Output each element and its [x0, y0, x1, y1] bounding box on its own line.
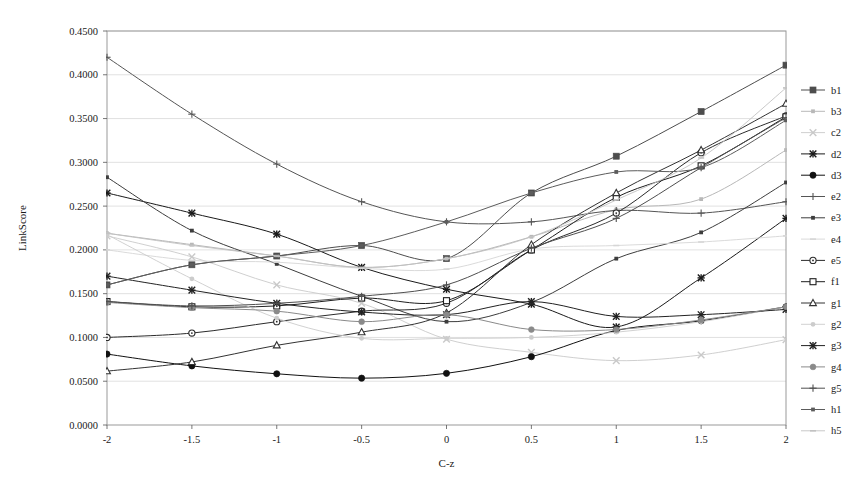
marker-dot-small — [529, 191, 533, 195]
data-point-h1 — [699, 166, 703, 170]
marker-square-open — [444, 298, 450, 304]
legend-label-b3: b3 — [831, 106, 842, 117]
data-point-g4 — [528, 327, 534, 333]
marker-dot-small — [190, 263, 194, 267]
data-point-h1 — [529, 191, 533, 195]
legend-marker-g3 — [809, 342, 816, 349]
legend-label-e4: e4 — [831, 234, 842, 245]
data-point-d3 — [274, 371, 280, 377]
legend-marker-e3 — [811, 216, 815, 220]
y-axis-tick-label: 0.4000 — [69, 69, 98, 80]
marker-dot-small — [811, 408, 815, 412]
legend-label-g3: g3 — [831, 340, 842, 351]
legend-item-e2[interactable]: e2 — [801, 191, 841, 202]
data-point-b1 — [783, 62, 789, 68]
data-point-h1 — [445, 220, 449, 224]
marker-circle-gray — [783, 304, 789, 310]
y-axis: 0.00000.05000.10000.15000.20000.25000.30… — [69, 26, 107, 431]
plot-background — [107, 31, 786, 425]
marker-dot-small — [699, 197, 703, 201]
legend-label-e5: e5 — [831, 255, 841, 266]
marker-square-open — [810, 279, 816, 285]
y-axis-tick-label: 0.2000 — [69, 244, 98, 255]
x-axis-tick-label: 0.5 — [525, 434, 538, 445]
legend-item-f1[interactable]: f1 — [801, 276, 840, 287]
legend-marker-g5 — [809, 385, 816, 392]
legend-marker-d3 — [810, 172, 816, 178]
legend-item-d2[interactable]: d2 — [801, 149, 842, 160]
marker-dot-light — [529, 335, 534, 340]
legend-item-h1[interactable]: h1 — [801, 404, 842, 415]
marker-dot-small — [445, 220, 449, 224]
y-axis-tick-label: 0.0500 — [69, 376, 98, 387]
legend-item-e3[interactable]: e3 — [801, 212, 841, 223]
marker-square-filled — [698, 109, 704, 115]
data-point-g4 — [698, 317, 704, 323]
data-point-e3 — [190, 229, 194, 233]
data-point-h1 — [360, 244, 364, 248]
x-axis-tick-label: 1 — [614, 434, 619, 445]
y-axis-tick-label: 0.3500 — [69, 113, 98, 124]
legend-marker-f1 — [810, 279, 816, 285]
marker-dot-light — [189, 276, 194, 281]
marker-circle-gray — [274, 308, 280, 314]
legend-label-d3: d3 — [831, 170, 842, 181]
line-chart: 0.00000.05000.10000.15000.20000.25000.30… — [0, 0, 861, 490]
marker-dot-small — [360, 244, 364, 248]
y-axis-tick-label: 0.1000 — [69, 332, 98, 343]
data-point-g4 — [274, 308, 280, 314]
marker-dot-small — [614, 170, 618, 174]
legend-item-e4[interactable]: e4 — [801, 234, 842, 245]
data-point-d2 — [188, 210, 195, 217]
marker-square-filled — [613, 153, 619, 159]
legend-item-g3[interactable]: g3 — [801, 340, 842, 351]
marker-circle-filled — [810, 172, 816, 178]
data-point-d2 — [782, 215, 789, 222]
marker-circle-gray — [810, 364, 816, 370]
x-axis-tick-label: -1 — [272, 434, 281, 445]
data-point-g2 — [529, 335, 534, 340]
marker-dot-small — [105, 283, 109, 287]
marker-circle-filled — [359, 375, 365, 381]
data-point-g4 — [783, 304, 789, 310]
legend-label-g4: g4 — [831, 362, 842, 373]
legend-item-b3[interactable]: b3 — [801, 106, 842, 117]
data-point-d2 — [273, 231, 280, 238]
y-axis-tick-label: 0.1500 — [69, 288, 98, 299]
data-point-g4 — [444, 312, 450, 318]
legend-marker-e2 — [809, 193, 816, 200]
legend-item-b1[interactable]: b1 — [801, 85, 842, 96]
data-point-d2 — [698, 274, 705, 281]
legend-item-g2[interactable]: g2 — [801, 319, 842, 330]
marker-dot-small — [811, 109, 815, 113]
legend-marker-e5 — [810, 257, 816, 263]
legend-item-e5[interactable]: e5 — [801, 255, 841, 266]
data-point-b3 — [699, 197, 703, 201]
data-point-g2 — [359, 336, 364, 341]
legend-marker-b3 — [811, 109, 815, 113]
legend-marker-h1 — [811, 408, 815, 412]
data-point-g3 — [188, 287, 195, 294]
data-point-e3 — [105, 175, 109, 179]
marker-dot-light — [444, 336, 449, 341]
legend-item-c2[interactable]: c2 — [801, 127, 841, 138]
legend-item-d3[interactable]: d3 — [801, 170, 842, 181]
marker-square-filled — [783, 62, 789, 68]
marker-circle-open-dot — [812, 260, 814, 262]
x-axis-tick-label: 0 — [444, 434, 449, 445]
data-point-h1 — [190, 263, 194, 267]
legend-label-h5: h5 — [831, 425, 842, 436]
legend-item-g5[interactable]: g5 — [801, 383, 842, 394]
legend-item-h5[interactable]: h5 — [801, 425, 842, 436]
legend-label-b1: b1 — [831, 85, 842, 96]
data-point-g3 — [103, 273, 110, 280]
data-point-h1 — [784, 118, 788, 122]
marker-dot-small — [784, 148, 788, 152]
marker-dot-small — [445, 320, 449, 324]
data-point-d3 — [104, 351, 110, 357]
legend-item-g4[interactable]: g4 — [801, 362, 842, 373]
legend-marker-g2 — [811, 322, 816, 327]
legend-item-g1[interactable]: g1 — [801, 298, 842, 309]
legend-marker-d2 — [809, 150, 816, 157]
data-point-g3 — [528, 298, 535, 305]
